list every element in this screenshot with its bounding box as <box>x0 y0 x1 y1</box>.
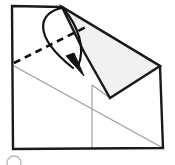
origami-diagram-container <box>0 0 175 165</box>
step-number-circle <box>7 156 21 165</box>
folded-flap <box>62 7 160 98</box>
origami-fold-diagram <box>0 0 175 165</box>
